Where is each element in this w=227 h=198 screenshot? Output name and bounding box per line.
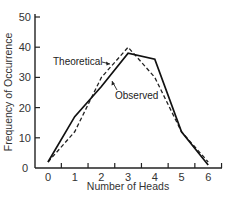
x-tick-label: 6 (205, 171, 211, 183)
series-observed (48, 53, 208, 165)
y-tick-label: 20 (19, 102, 31, 114)
y-tick-label: 10 (19, 132, 31, 144)
x-tick-label: 0 (45, 171, 51, 183)
x-tick-label: 1 (72, 171, 78, 183)
x-tick-label: 5 (178, 171, 184, 183)
annotation-theoretical: Theoretical (53, 56, 110, 67)
observed-label: Observed (115, 90, 158, 101)
y-tick-label: 30 (19, 71, 31, 83)
theoretical-label: Theoretical (53, 56, 102, 67)
y-tick-label: 50 (19, 11, 31, 23)
y-tick-label: 0 (22, 162, 28, 174)
y-ticks: 01020304050 (19, 11, 40, 174)
annotation-observed: Observed (112, 81, 159, 101)
x-axis-title: Number of Heads (87, 180, 169, 192)
y-axis-title: Frequency of Occurrence (2, 33, 14, 152)
y-tick-label: 40 (19, 41, 31, 53)
frequency-chart: 01020304050 0123456 Number of Heads Freq… (0, 0, 227, 198)
